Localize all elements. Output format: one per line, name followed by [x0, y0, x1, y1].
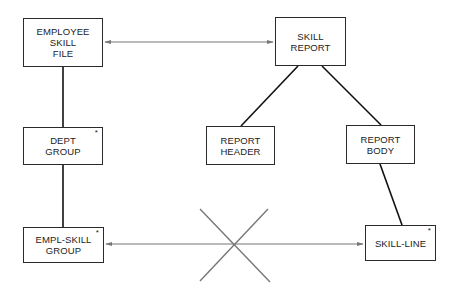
node-empl-skill-group: EMPL-SKILL GROUP *: [23, 227, 104, 263]
cross-out-line-1: [200, 209, 270, 282]
node-employee-skill-file: EMPLOYEE SKILL FILE: [23, 18, 103, 67]
node-label: EMPLOYEE SKILL FILE: [36, 26, 89, 59]
repeat-marker-icon: *: [96, 229, 99, 237]
line-body-to-skillline: [380, 164, 402, 225]
node-report-body: REPORT BODY: [346, 125, 415, 164]
node-skill-line: SKILL-LINE *: [365, 225, 436, 261]
node-report-header: REPORT HEADER: [206, 126, 275, 165]
line-report-to-body: [322, 66, 381, 125]
node-label: EMPL-SKILL GROUP: [36, 234, 92, 256]
node-label: DEPT GROUP: [45, 135, 80, 157]
node-label: REPORT HEADER: [220, 135, 260, 157]
repeat-marker-icon: *: [95, 129, 98, 137]
node-dept-group: DEPT GROUP *: [23, 127, 103, 165]
line-report-to-header: [241, 66, 298, 126]
repeat-marker-icon: *: [428, 227, 431, 235]
node-skill-report: SKILL REPORT: [275, 17, 346, 66]
node-label: SKILL-LINE: [375, 238, 426, 249]
node-label: REPORT BODY: [360, 134, 400, 156]
node-label: SKILL REPORT: [290, 31, 330, 53]
